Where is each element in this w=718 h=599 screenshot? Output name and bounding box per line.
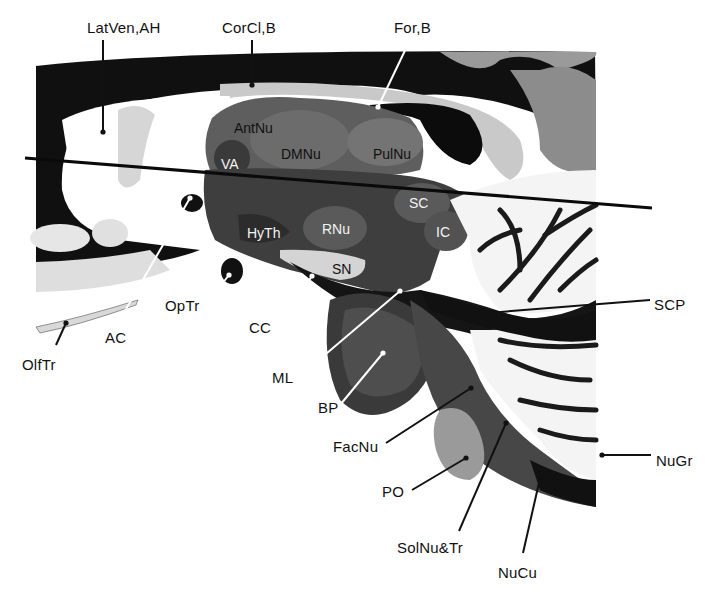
nugr-pointer-dot (599, 452, 604, 457)
label-for-b: For,B (394, 20, 431, 35)
label-pulnu: PulNu (373, 147, 411, 161)
label-nugr: NuGr (656, 453, 693, 468)
cc-pointer-dot (309, 273, 314, 278)
label-olftr: OlfTr (22, 357, 56, 372)
label-ic: IC (436, 225, 450, 239)
label-va: VA (221, 157, 239, 171)
ml-pointer-dot (397, 288, 402, 293)
label-sc: SC (409, 196, 428, 210)
label-facnu: FacNu (333, 439, 378, 454)
latven-ah-pointer-dot (100, 129, 105, 134)
label-dmnu: DMNu (281, 147, 321, 161)
label-hyth: HyTh (247, 226, 280, 240)
olftr-pointer-dot (63, 320, 68, 325)
label-solnu-tr: SolNu&Tr (397, 540, 463, 555)
po-pointer-dot (463, 455, 468, 460)
label-nucu: NuCu (498, 565, 537, 580)
label-cc: CC (249, 320, 271, 335)
facnu-pointer-dot (468, 385, 473, 390)
ac-pointer-dot (187, 195, 192, 200)
label-rnu: RNu (322, 222, 350, 236)
label-po: PO (382, 484, 404, 499)
label-bp: BP (318, 400, 338, 415)
label-corcl-b: CorCl,B (222, 20, 276, 35)
scp-pointer-dot (472, 311, 477, 316)
optr-pointer-dot (226, 272, 231, 277)
label-ml: ML (272, 370, 293, 385)
label-optr: OpTr (165, 298, 199, 313)
for-b-pointer-dot (375, 104, 380, 109)
bp-pointer-dot (380, 350, 385, 355)
label-scp: SCP (654, 297, 685, 312)
solnu-tr-pointer-dot (503, 420, 508, 425)
label-ac: AC (105, 330, 126, 345)
label-sn: SN (332, 262, 351, 276)
nucu-pointer-dot (538, 471, 543, 476)
brain-section-photo (30, 51, 596, 507)
brain-section-figure (0, 0, 718, 599)
label-latven-ah: LatVen,AH (87, 20, 161, 35)
label-antnu: AntNu (234, 121, 273, 135)
corcl-b-pointer-dot (249, 82, 254, 87)
